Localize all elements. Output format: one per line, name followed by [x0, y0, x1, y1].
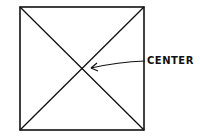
arrow-line	[91, 61, 145, 68]
square-diagonals-diagram	[0, 0, 200, 137]
center-label: CENTER	[147, 55, 194, 66]
